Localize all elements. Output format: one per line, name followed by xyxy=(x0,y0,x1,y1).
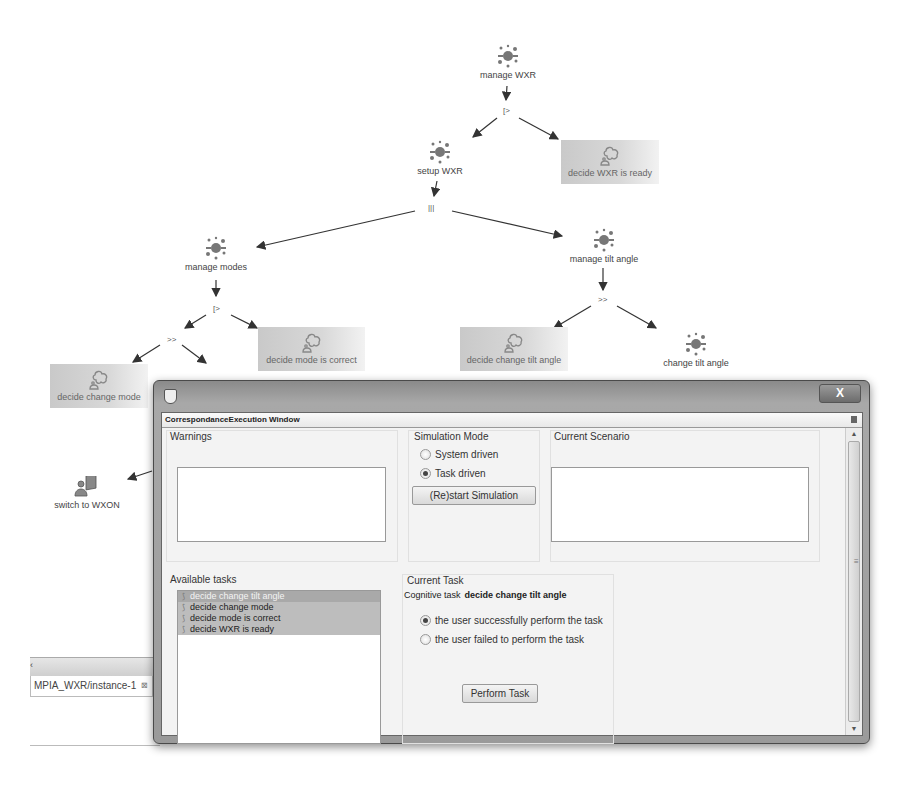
chevron-left-icon[interactable]: ‹ xyxy=(30,660,33,670)
close-icon[interactable]: ⊠ xyxy=(141,676,148,696)
radio-task-failed[interactable]: the user failed to perform the task xyxy=(420,634,584,645)
radio-indicator xyxy=(420,449,431,460)
task-label: decide change mode xyxy=(56,392,142,402)
grip-icon: ≡ xyxy=(854,557,859,566)
task-icon: ⟆ xyxy=(182,613,190,624)
scroll-up-icon[interactable]: ▲ xyxy=(846,428,862,440)
radio-label: System driven xyxy=(435,449,498,460)
task-node-manage-modes[interactable]: manage modes xyxy=(180,236,252,272)
view-title: CorrespondanceExecution Window xyxy=(165,415,300,424)
task-label: setup WXR xyxy=(410,166,470,176)
task-label: switch to WXON xyxy=(52,500,122,510)
background-tab-strip xyxy=(30,657,165,676)
task-node-decide-wxr-ready[interactable]: decide WXR is ready xyxy=(561,140,659,184)
task-label: manage tilt angle xyxy=(562,254,646,264)
view-content: Warnings Simulation Mode System driven T… xyxy=(162,428,845,735)
task-label: manage WXR xyxy=(478,70,538,80)
abstract-task-icon xyxy=(204,236,228,260)
available-tasks-label: Available tasks xyxy=(170,574,237,585)
list-item[interactable]: ⟆decide change tilt angle xyxy=(178,591,380,602)
shield-icon xyxy=(164,389,177,404)
cognitive-task-icon xyxy=(502,331,526,353)
current-task-label: Current Task xyxy=(407,575,464,586)
divider xyxy=(30,745,160,746)
radio-task-success[interactable]: the user successfully perform the task xyxy=(420,615,603,626)
scrollbar-thumb[interactable]: ≡ xyxy=(848,441,860,722)
simulation-mode-label: Simulation Mode xyxy=(414,431,488,442)
warnings-textarea[interactable] xyxy=(177,467,386,542)
radio-label: the user failed to perform the task xyxy=(435,634,584,645)
cognitive-task-icon xyxy=(300,331,324,353)
operator-disabling-1: [> xyxy=(503,106,510,115)
radio-label: the user successfully perform the task xyxy=(435,615,603,626)
tab-label: MPIA_WXR/instance-1 xyxy=(34,680,136,691)
maximize-icon[interactable] xyxy=(851,416,857,423)
perform-task-button[interactable]: Perform Task xyxy=(462,684,538,703)
restart-simulation-button[interactable]: (Re)start Simulation xyxy=(412,486,536,505)
cognitive-task-icon xyxy=(87,368,111,390)
task-icon: ⟆ xyxy=(182,591,190,602)
cognitive-task-line: Cognitive taskdecide change tilt angle xyxy=(404,590,567,600)
window-close-button[interactable]: X xyxy=(819,384,861,403)
task-node-manage-tilt-angle[interactable]: manage tilt angle xyxy=(562,228,646,264)
operator-interleaving: ||| xyxy=(428,203,434,212)
radio-indicator xyxy=(420,468,431,479)
warnings-label: Warnings xyxy=(170,431,212,442)
abstract-task-icon xyxy=(428,140,452,164)
cognitive-task-icon xyxy=(598,144,622,166)
vertical-scrollbar[interactable]: ▲ ≡ ▼ xyxy=(845,428,862,735)
abstract-task-icon xyxy=(592,228,616,252)
current-cognitive-task: decide change tilt angle xyxy=(465,590,567,600)
task-node-decide-mode-correct[interactable]: decide mode is correct xyxy=(258,327,365,371)
task-label: decide mode is correct xyxy=(264,355,359,365)
background-editor-tab[interactable]: MPIA_WXR/instance-1 ⊠ xyxy=(30,676,153,697)
list-item[interactable]: ⟆decide mode is correct xyxy=(178,613,380,624)
task-label: change tilt angle xyxy=(657,358,735,368)
list-item[interactable]: ⟆decide WXR is ready xyxy=(178,624,380,635)
radio-label: Task driven xyxy=(435,468,486,479)
current-scenario-textarea[interactable] xyxy=(551,467,809,542)
interaction-task-icon xyxy=(74,476,100,498)
scroll-down-icon[interactable]: ▼ xyxy=(846,723,862,735)
radio-indicator xyxy=(420,634,431,645)
task-label: decide WXR is ready xyxy=(567,168,653,178)
task-label: decide change tilt angle xyxy=(466,355,562,365)
view-title-bar: CorrespondanceExecution Window xyxy=(162,413,862,428)
radio-system-driven[interactable]: System driven xyxy=(420,449,498,460)
task-icon: ⟆ xyxy=(182,602,190,613)
operator-enabling-1: >> xyxy=(167,335,177,344)
task-icon: ⟆ xyxy=(182,624,190,635)
radio-indicator xyxy=(420,615,431,626)
available-tasks-list[interactable]: ⟆decide change tilt angle ⟆decide change… xyxy=(177,590,381,744)
task-label: manage modes xyxy=(180,262,252,272)
current-scenario-label: Current Scenario xyxy=(554,431,630,442)
list-item[interactable]: ⟆decide change mode xyxy=(178,602,380,613)
abstract-task-icon xyxy=(684,332,708,356)
task-node-change-tilt-angle[interactable]: change tilt angle xyxy=(657,332,735,368)
task-node-decide-change-mode[interactable]: decide change mode xyxy=(50,364,148,408)
task-node-setup-wxr[interactable]: setup WXR xyxy=(410,140,470,176)
abstract-task-icon xyxy=(496,44,520,68)
radio-task-driven[interactable]: Task driven xyxy=(420,468,486,479)
operator-enabling-2: >> xyxy=(598,295,608,304)
correspondance-execution-dialog: X CorrespondanceExecution Window Warning… xyxy=(153,380,870,744)
dialog-client-area: CorrespondanceExecution Window Warnings … xyxy=(161,412,863,736)
task-node-decide-change-tilt-angle[interactable]: decide change tilt angle xyxy=(460,327,568,371)
task-node-switch-to-wxon[interactable]: switch to WXON xyxy=(52,476,122,510)
task-node-manage-wxr[interactable]: manage WXR xyxy=(478,44,538,80)
operator-disabling-2: [> xyxy=(213,304,220,313)
